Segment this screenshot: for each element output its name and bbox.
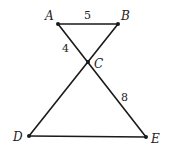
measure-ac: 4 [62,42,69,55]
label-e: E [150,132,160,146]
point-d [27,134,31,138]
point-e [144,135,148,139]
segment-de [29,136,146,137]
measure-ce: 8 [121,91,128,104]
geometry-diagram: A B C D E 5 4 8 [0,0,169,150]
point-a [56,22,60,26]
label-d: D [12,130,23,144]
label-a: A [44,9,54,23]
segments [29,24,146,137]
measure-ab: 5 [84,9,91,22]
point-c [86,60,90,64]
label-b: B [120,9,130,23]
segment-ae [58,24,146,137]
segment-bd [29,24,118,136]
label-c: C [94,57,103,71]
points [27,22,148,139]
point-b [116,22,120,26]
